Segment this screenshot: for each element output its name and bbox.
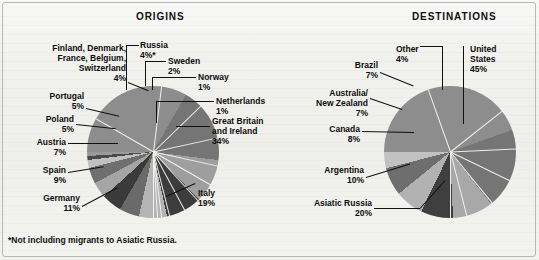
origins-label-finland-group-line1: Finland, Denmark, xyxy=(8,43,126,54)
origins-label-germany-percent: 11% xyxy=(8,203,80,214)
origins-label-italy-percent: 19% xyxy=(198,198,215,209)
origins-label-finland-group-percent: 4% xyxy=(8,73,126,84)
pie-slice-divider xyxy=(96,119,154,153)
destinations-label-asiatic-russia: Asiatic Russia xyxy=(286,198,372,209)
pie-slice-divider xyxy=(450,148,516,152)
origins-label-great-britain-percent: 34% xyxy=(212,136,229,147)
origins-label-spain-percent: 9% xyxy=(8,175,66,186)
origins-label-austria-percent: 7% xyxy=(4,147,66,158)
leader-line-united-states xyxy=(463,46,464,124)
destinations-label-australia-line1: Australia/ xyxy=(298,88,368,99)
destinations-label-united-states-percent: 45% xyxy=(470,64,487,75)
destinations-pie-slices xyxy=(384,86,516,218)
pie-slice-divider xyxy=(153,137,218,152)
origins-label-austria: Austria xyxy=(4,137,66,148)
pie-slice-divider xyxy=(450,152,510,182)
origins-label-russia-percent: 4%* xyxy=(140,50,156,61)
origins-panel-title: ORIGINS xyxy=(136,11,185,22)
leader-line-norway-vertical xyxy=(152,77,153,90)
leader-line-sweden-vertical xyxy=(145,61,146,86)
origins-label-italy: Italy xyxy=(198,188,215,199)
leader-line-great-britain xyxy=(176,126,210,127)
leader-line-netherlands-vertical xyxy=(156,101,157,123)
origins-label-norway: Norway xyxy=(198,72,229,83)
leader-line-asiatic-russia xyxy=(374,208,420,209)
destinations-label-other: Other xyxy=(396,44,419,55)
destinations-label-australia-percent: 7% xyxy=(298,108,368,119)
origins-label-netherlands: Netherlands xyxy=(216,96,265,107)
destinations-pie-chart xyxy=(384,86,516,218)
leader-line-brazil xyxy=(380,72,414,86)
pie-slice-divider xyxy=(153,152,154,218)
origins-label-spain: Spain xyxy=(8,165,66,176)
pie-slice-divider xyxy=(450,111,502,153)
leader-line-other-vertical xyxy=(442,46,443,90)
destinations-label-australia-line2: New Zealand xyxy=(298,98,368,109)
leader-line-russia xyxy=(126,45,139,46)
origins-label-finland-group-line2: France, Belgium, xyxy=(8,53,126,64)
leader-line-sweden xyxy=(145,61,166,62)
origins-label-poland: Poland xyxy=(8,114,74,125)
origins-label-great-britain-line1: Great Britain xyxy=(212,116,264,127)
destinations-label-brazil-percent: 7% xyxy=(330,70,378,81)
leader-line-norway xyxy=(152,77,196,78)
origins-label-finland-group-line3: Switzerland xyxy=(8,63,126,74)
origins-label-germany: Germany xyxy=(8,193,80,204)
origins-label-netherlands-percent: 1% xyxy=(216,106,228,117)
origins-label-russia: Russia xyxy=(140,40,168,51)
destinations-label-brazil: Brazil xyxy=(330,60,378,71)
leader-line-other xyxy=(420,46,442,47)
leader-line-russia-vertical xyxy=(126,45,127,90)
destinations-panel-title: DESTINATIONS xyxy=(412,11,497,22)
destinations-label-united-states-line2: States xyxy=(470,54,496,65)
pie-chart-figure: ORIGINS DESTINATIONS Finland, Denmark, F… xyxy=(0,0,539,260)
destinations-label-argentina-percent: 10% xyxy=(300,175,364,186)
leader-line-austria xyxy=(68,143,118,144)
destinations-label-canada-percent: 8% xyxy=(306,134,360,145)
origins-label-sweden-percent: 2% xyxy=(168,66,180,77)
figure-footnote: *Not including migrants to Asiatic Russi… xyxy=(8,235,177,245)
pie-slice-divider xyxy=(428,90,451,153)
destinations-label-united-states-line1: United xyxy=(470,44,496,55)
destinations-label-asiatic-russia-percent: 20% xyxy=(286,208,372,219)
origins-label-portugal: Portugal xyxy=(8,91,84,102)
destinations-label-argentina: Argentina xyxy=(300,165,364,176)
destinations-label-other-percent: 4% xyxy=(396,54,408,65)
pie-slice-divider xyxy=(153,86,162,152)
origins-label-great-britain-line2: and Ireland xyxy=(212,126,257,137)
origins-label-sweden: Sweden xyxy=(168,56,200,67)
destinations-label-canada: Canada xyxy=(306,124,360,135)
origins-label-portugal-percent: 5% xyxy=(8,101,84,112)
leader-line-netherlands xyxy=(156,101,214,102)
pie-slice-divider xyxy=(450,152,451,218)
origins-label-norway-percent: 1% xyxy=(198,82,210,93)
origins-label-poland-percent: 5% xyxy=(8,124,74,135)
